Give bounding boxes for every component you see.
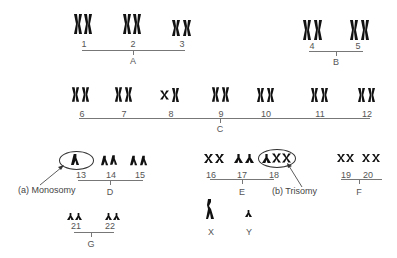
- chromosome-label-1: 1: [81, 40, 86, 49]
- chromosome-18b-icon: [272, 153, 281, 163]
- chromosome-4a-icon: [302, 20, 312, 40]
- chromosome-16b-icon: [215, 154, 224, 163]
- chromosome-10a-icon: [256, 88, 265, 102]
- chromosome-label-y: Y: [246, 228, 252, 237]
- monosomy-arrow-icon: [38, 164, 68, 186]
- chromosome-3a-icon: [171, 20, 181, 36]
- trisomy-arrow-icon: [285, 162, 305, 188]
- group-b-tick: [336, 52, 337, 56]
- chromosome-22a-icon: [105, 213, 112, 220]
- group-label-a: A: [130, 57, 136, 66]
- chromosome-10b-icon: [266, 88, 275, 102]
- chromosome-label-4: 4: [309, 42, 314, 51]
- chromosome-label-15: 15: [135, 171, 145, 180]
- chromosome-label-14: 14: [106, 171, 116, 180]
- chromosome-3b-icon: [182, 20, 192, 36]
- chromosome-label-21: 21: [71, 222, 81, 231]
- chromosome-17a-icon: [234, 154, 243, 163]
- chromosome-7a-icon: [114, 87, 123, 102]
- chromosome-21b-icon: [75, 213, 82, 220]
- chromosome-label-2: 2: [130, 40, 135, 49]
- chromosome-17b-icon: [245, 154, 254, 163]
- chromosome-14b-icon: [110, 154, 118, 166]
- group-f-line: [341, 179, 382, 180]
- chromosome-6b-icon: [81, 87, 90, 102]
- chromosome-11b-icon: [320, 88, 329, 102]
- group-label-f: F: [356, 188, 362, 197]
- chromosome-7b-icon: [124, 87, 133, 102]
- chromosome-label-13: 13: [76, 171, 86, 180]
- group-g-tick: [91, 233, 92, 237]
- group-c-line: [79, 118, 370, 119]
- chromosome-16a-icon: [204, 154, 213, 163]
- chromosome-21a-icon: [67, 213, 74, 220]
- chromosome-label-22: 22: [105, 222, 115, 231]
- chromosome-20a-icon: [362, 154, 370, 162]
- group-e-tick: [242, 180, 243, 184]
- group-d-tick: [110, 181, 111, 185]
- monosomy-label: (a) Monosomy: [18, 186, 76, 195]
- chromosome-y-icon: [245, 210, 252, 217]
- group-label-e: E: [239, 188, 245, 197]
- chromosome-9a-icon: [211, 87, 220, 102]
- chromosome-5b-icon: [360, 20, 370, 40]
- group-g-line: [74, 232, 114, 233]
- group-label-c: C: [217, 125, 224, 134]
- group-label-b: B: [333, 58, 339, 67]
- chromosome-8a-icon: [160, 89, 169, 101]
- chromosome-13-icon: [71, 153, 80, 166]
- chromosome-18a-icon: [262, 154, 271, 163]
- chromosome-19b-icon: [346, 154, 354, 162]
- chromosome-15b-icon: [140, 155, 148, 166]
- chromosome-1b-icon: [83, 13, 93, 35]
- chromosome-label-3: 3: [179, 40, 184, 49]
- chromosome-9b-icon: [221, 87, 230, 102]
- chromosome-6a-icon: [71, 87, 80, 102]
- chromosome-22b-icon: [113, 213, 120, 220]
- group-c-tick: [220, 119, 221, 123]
- chromosome-2b-icon: [132, 13, 142, 35]
- group-a-tick: [133, 51, 134, 55]
- group-label-d: D: [107, 188, 114, 197]
- chromosome-1a-icon: [73, 13, 83, 35]
- trisomy-label: (b) Trisomy: [272, 187, 317, 196]
- chromosome-label-5: 5: [355, 42, 360, 51]
- chromosome-15a-icon: [130, 155, 138, 166]
- chromosome-4b-icon: [313, 20, 323, 40]
- chromosome-label-x: X: [208, 228, 214, 237]
- chromosome-5a-icon: [349, 20, 359, 40]
- chromosome-2a-icon: [122, 13, 132, 35]
- chromosome-12a-icon: [357, 88, 366, 102]
- chromosome-12b-icon: [367, 88, 376, 102]
- chromosome-11a-icon: [310, 88, 319, 102]
- chromosome-8b-icon: [171, 88, 180, 102]
- group-f-tick: [359, 180, 360, 184]
- chromosome-x-icon: [206, 199, 215, 219]
- group-label-g: G: [87, 240, 94, 249]
- chromosome-19a-icon: [337, 154, 345, 162]
- chromosome-14a-icon: [101, 155, 109, 166]
- chromosome-20b-icon: [372, 154, 380, 162]
